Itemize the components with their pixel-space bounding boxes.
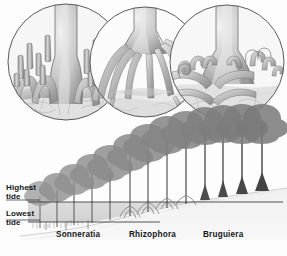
tree-item — [236, 104, 287, 191]
zone-label-bruguiera: Bruguiera — [203, 230, 243, 239]
zone-label-sonneratia: Sonneratia — [56, 230, 100, 239]
zonation-profile-layer — [0, 0, 287, 256]
highest-tide-label: Highest tide — [6, 184, 36, 201]
buttress-base-icon — [255, 172, 269, 191]
buttress-base-icon — [218, 180, 228, 197]
buttress-base-icon — [200, 184, 210, 200]
lowest-tide-label: Lowest tide — [6, 210, 34, 227]
mangrove-zonation-figure: Highest tide Lowest tide Sonneratia Rhiz… — [0, 0, 287, 256]
buttress-base-icon — [236, 176, 248, 194]
zone-label-rhizophora: Rhizophora — [129, 230, 176, 239]
